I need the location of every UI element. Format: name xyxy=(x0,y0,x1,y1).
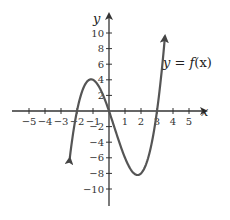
x-tick-label: 1 xyxy=(122,116,128,127)
y-tick-label: 8 xyxy=(98,43,104,54)
x-axis-label: x xyxy=(201,104,209,119)
function-curve xyxy=(70,36,165,175)
function-graph: −5−4−3−2−112345108642−2−4−6−8−10 y x y =… xyxy=(0,0,230,220)
x-tick-label: −5 xyxy=(22,116,37,127)
x-tick-label: −2 xyxy=(70,116,85,127)
y-tick-label: −6 xyxy=(89,152,104,163)
y-tick-label: −10 xyxy=(83,184,104,195)
y-tick-label: −4 xyxy=(89,137,104,148)
y-tick-label: −8 xyxy=(89,168,104,179)
y-tick-label: 10 xyxy=(91,28,104,39)
x-tick-label: −3 xyxy=(54,116,69,127)
y-axis-label: y xyxy=(92,11,101,26)
x-tick-label: 5 xyxy=(186,116,192,127)
function-label-eq: = xyxy=(170,55,189,70)
y-tick-label: 4 xyxy=(98,74,104,85)
x-tick-label: −4 xyxy=(38,116,53,127)
y-tick-label: 6 xyxy=(98,59,104,70)
function-label-arg: (x) xyxy=(194,55,211,70)
function-label: y = f(x) xyxy=(162,55,212,70)
y-tick-label: −2 xyxy=(89,121,104,132)
x-tick-label: 2 xyxy=(138,116,144,127)
x-tick-label: 4 xyxy=(170,116,176,127)
